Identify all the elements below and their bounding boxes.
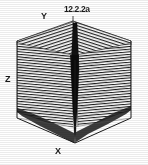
surface-quadrant-left-flank [17,43,75,132]
surface-quadrant-right-flank [76,43,131,130]
figure-caption: 12.2.2a [64,4,90,14]
axis-label-y: Y [41,11,47,21]
axis-label-x: X [55,146,61,156]
surface-plot-canvas [0,0,148,165]
figure-3d-surface-plot: 12.2.2a Y Z X [0,0,148,165]
axis-label-z: Z [5,74,10,84]
